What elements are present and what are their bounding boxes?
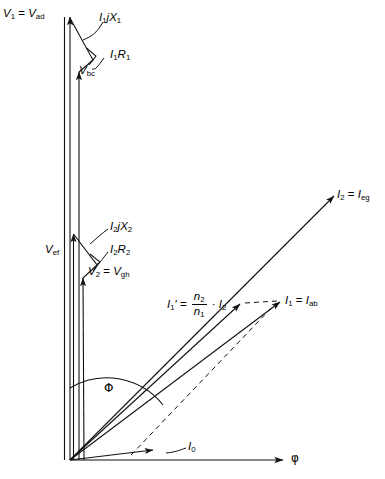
label-i2jx2: I2jX2	[110, 220, 132, 235]
label-vef: Vef	[45, 243, 59, 258]
phasor-canvas	[0, 0, 385, 479]
ratio-fraction: n2n1	[192, 290, 207, 320]
label-i0: I0	[188, 440, 196, 455]
label-vbc: Vbc	[79, 64, 95, 79]
i1prime-current-vector	[70, 304, 240, 460]
label-phi-angle: Φ	[104, 382, 113, 395]
phasor-diagram: V1 = Vad I1jX1 I1R1 Vbc Vef I2jX2 I2R2 V…	[0, 0, 385, 479]
i2-current-vector	[70, 196, 334, 460]
i0-leader-line	[166, 448, 186, 453]
label-phi-axis: φ	[291, 452, 299, 465]
label-i1-iab: I1 = Iab	[285, 294, 318, 309]
label-i2-ieg: I2 = Ieg	[337, 188, 370, 203]
label-i1r1: I1R1	[110, 48, 130, 63]
label-i2r2: I2R2	[110, 243, 130, 258]
label-v1-vad: V1 = Vad	[3, 7, 45, 22]
v2-phasor-vector	[83, 278, 84, 460]
label-i1jx1: I1jX1	[99, 11, 121, 26]
label-v2-vgh: V2 = Vgh	[88, 265, 130, 280]
i2jx2-leader-line	[90, 229, 108, 244]
i1prime-to-i1-dashed	[245, 301, 277, 303]
i2r2-leader-line	[97, 252, 108, 264]
i0-current-vector	[70, 450, 153, 460]
label-i1prime-formula: I1′ = n2n1 · I2	[167, 290, 226, 320]
i1-current-vector	[70, 302, 280, 460]
